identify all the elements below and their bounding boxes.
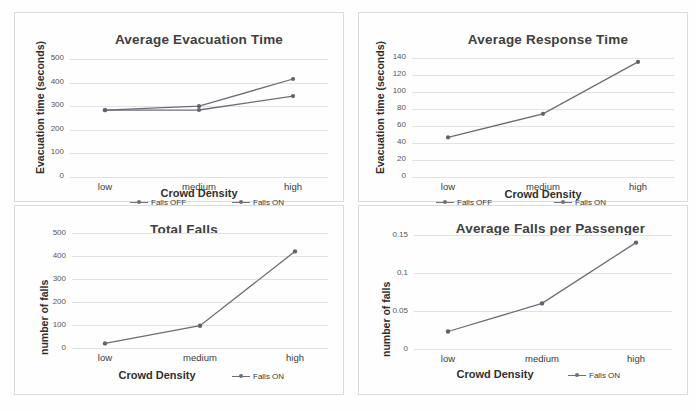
legend-item-falls-on[interactable]: Falls ON bbox=[232, 372, 284, 381]
y-tick-label: 0.15 bbox=[370, 230, 408, 239]
y-tick-label: 0.05 bbox=[370, 306, 408, 315]
legend-marker-icon bbox=[232, 373, 250, 380]
x-tick-label: low bbox=[75, 352, 135, 363]
legend-item-falls-on[interactable]: Falls ON bbox=[568, 371, 620, 380]
y-tick-label: 500 bbox=[20, 53, 64, 62]
gridline bbox=[72, 348, 328, 349]
legend-label: Falls ON bbox=[589, 371, 620, 380]
y-tick-label: 60 bbox=[368, 120, 406, 129]
x-axis-title: Crowd Density bbox=[82, 369, 232, 381]
y-tick-label: 120 bbox=[368, 69, 406, 78]
y-tick-label: 100 bbox=[20, 147, 64, 156]
gridline bbox=[414, 349, 672, 350]
chart-panel-average-falls-per-passenger: Average Falls per Passenger number of fa… bbox=[358, 205, 688, 395]
y-tick-label: 400 bbox=[20, 77, 64, 86]
y-tick-label: 400 bbox=[30, 251, 66, 260]
y-tick-label: 300 bbox=[20, 100, 64, 109]
y-tick-label: 20 bbox=[368, 154, 406, 163]
chart-panel-total-falls: Total Falls number of falls 500 400 300 … bbox=[14, 205, 344, 395]
chart-panel-average-response-time: Average Response Time Evacuation time (s… bbox=[358, 12, 688, 202]
figure-page: Average Evacuation Time Evacuation time … bbox=[0, 0, 697, 412]
gridline bbox=[412, 177, 674, 178]
gridline bbox=[70, 177, 328, 178]
chart-panel-average-evacuation-time: Average Evacuation Time Evacuation time … bbox=[14, 12, 344, 202]
y-tick-label: 100 bbox=[30, 320, 66, 329]
plot-area: 500 400 300 200 100 0 low medium high bbox=[70, 47, 328, 177]
chart-title: Average Evacuation Time bbox=[74, 32, 324, 47]
y-tick-label: 0 bbox=[370, 344, 408, 353]
series-lines bbox=[414, 235, 672, 349]
y-tick-label: 0.1 bbox=[370, 268, 408, 277]
plot-area: 140 120 100 80 60 40 20 0 low medium hig… bbox=[412, 45, 674, 177]
y-tick-label: 200 bbox=[20, 124, 64, 133]
legend-label: Falls ON bbox=[253, 372, 284, 381]
x-axis-title: Crowd Density bbox=[420, 368, 570, 380]
chart-title: Average Falls per Passenger bbox=[418, 221, 683, 236]
y-tick-label: 0 bbox=[20, 171, 64, 180]
x-tick-label: medium bbox=[170, 352, 230, 363]
series-lines bbox=[412, 45, 674, 177]
y-tick-label: 300 bbox=[30, 274, 66, 283]
y-tick-label: 0 bbox=[368, 171, 406, 180]
y-tick-label: 200 bbox=[30, 297, 66, 306]
plot-area: 500 400 300 200 100 0 low medium high bbox=[72, 233, 328, 348]
y-tick-label: 500 bbox=[30, 228, 66, 237]
legend-marker-icon bbox=[568, 372, 586, 379]
y-tick-label: 40 bbox=[368, 137, 406, 146]
y-tick-label: 140 bbox=[368, 52, 406, 61]
series-lines bbox=[72, 233, 328, 348]
x-tick-label: high bbox=[606, 353, 666, 364]
x-tick-label: high bbox=[265, 352, 325, 363]
y-tick-label: 0 bbox=[30, 343, 66, 352]
x-tick-label: low bbox=[418, 353, 478, 364]
y-tick-label: 100 bbox=[368, 86, 406, 95]
y-tick-label: 80 bbox=[368, 103, 406, 112]
x-tick-label: medium bbox=[512, 353, 572, 364]
plot-area: 0.15 0.1 0.05 0 low medium high bbox=[414, 235, 672, 349]
series-lines bbox=[70, 47, 328, 177]
